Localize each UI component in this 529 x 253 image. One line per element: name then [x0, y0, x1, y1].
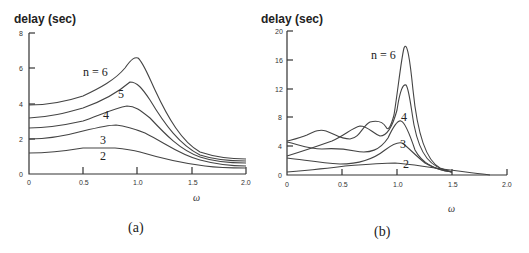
panel-b-curve-n6 — [287, 46, 452, 172]
panel-b-ytick: 4 — [278, 143, 282, 150]
panel-a-yticks: 8 6 4 2 0 — [19, 30, 35, 178]
panel-a-ylabel: delay (sec) — [14, 12, 76, 26]
panel-b: delay (sec) 20 16 12 8 4 0 0 0.5 1.0 1.5… — [261, 12, 512, 240]
panel-b-curve-n3 — [287, 143, 452, 172]
panel-b-ytick: 16 — [275, 57, 283, 64]
panel-b-yticks: 20 16 12 8 4 0 — [275, 28, 293, 179]
panel-b-ytick: 8 — [278, 114, 282, 121]
panel-a-xtick: 0.5 — [79, 179, 89, 186]
panel-a-xtick: 1.0 — [133, 179, 143, 186]
panel-a-caption: (a) — [128, 220, 144, 236]
panel-b-label-n3: 3 — [400, 137, 406, 151]
panel-b-xticks: 0 0.5 1.0 1.5 2.0 — [285, 169, 512, 188]
panel-a-ytick: 6 — [19, 65, 23, 72]
panel-a: delay (sec) 8 6 4 2 0 0 0.5 1.0 1.5 2.0 — [14, 12, 251, 236]
panel-b-caption: (b) — [374, 224, 391, 240]
panel-a-axes — [29, 33, 246, 174]
panel-b-xtick: 0.5 — [338, 181, 348, 188]
panel-b-label-n2: 2 — [403, 157, 409, 171]
panel-a-xtick: 0 — [27, 179, 31, 186]
panel-a-curve-n4 — [29, 106, 246, 163]
panel-b-xlabel: ω — [448, 203, 455, 214]
panel-a-label-n5: 5 — [118, 87, 124, 101]
panel-b-ytick: 12 — [275, 86, 283, 93]
panel-b-curve-n2 — [287, 163, 490, 175]
panel-a-xtick: 2.0 — [241, 179, 251, 186]
panel-b-label-n4: 4 — [401, 110, 407, 124]
panel-a-ytick: 2 — [19, 136, 23, 143]
panel-a-label-n6: n = 6 — [83, 65, 108, 79]
panel-a-label-n3: 3 — [100, 133, 106, 147]
panel-b-ytick: 20 — [275, 28, 283, 35]
panel-b-ylabel: delay (sec) — [261, 12, 323, 26]
panel-b-axes — [287, 31, 507, 175]
panel-a-label-n2: 2 — [100, 149, 106, 163]
panel-a-curve-n5 — [29, 82, 246, 161]
figure-canvas: delay (sec) 8 6 4 2 0 0 0.5 1.0 1.5 2.0 — [0, 0, 529, 253]
panel-a-xlabel: ω — [193, 192, 200, 203]
panel-a-ytick: 4 — [19, 101, 23, 108]
panel-a-ytick: 8 — [19, 30, 23, 37]
panel-b-xtick: 1.5 — [448, 181, 458, 188]
panel-b-xtick: 1.0 — [393, 181, 403, 188]
panel-a-label-n4: 4 — [103, 108, 109, 122]
panel-b-label-n6: n = 6 — [371, 48, 396, 62]
panel-b-xtick: 0 — [285, 181, 289, 188]
panel-a-ytick: 0 — [19, 171, 23, 178]
panel-a-xtick: 1.5 — [188, 179, 198, 186]
panel-b-xtick: 2.0 — [502, 181, 512, 188]
panel-a-xticks: 0 0.5 1.0 1.5 2.0 — [27, 167, 251, 186]
panel-b-ytick: 0 — [278, 172, 282, 179]
